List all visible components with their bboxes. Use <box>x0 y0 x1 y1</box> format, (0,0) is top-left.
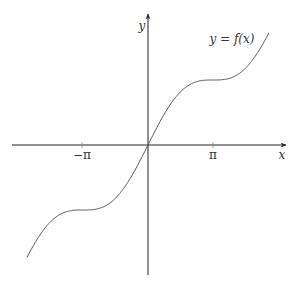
curve-label: y = f(x) <box>208 32 254 46</box>
y-axis-label: y <box>138 19 146 33</box>
function-plot: −π π x y y = f(x) <box>0 0 301 289</box>
tick-label-pi: π <box>209 148 217 162</box>
x-axis-label: x <box>279 148 286 162</box>
tick-label-neg-pi: −π <box>73 148 91 162</box>
